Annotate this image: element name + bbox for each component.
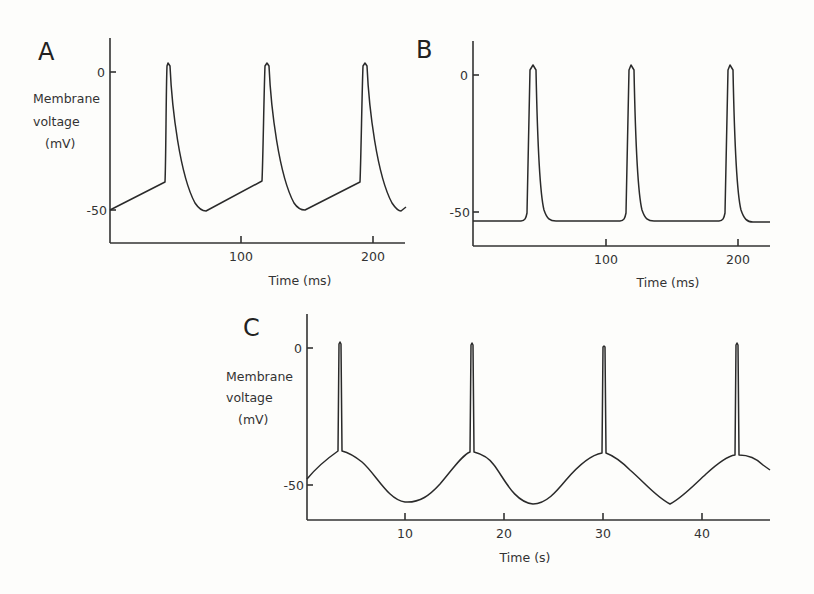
panel-b-yticklabel-0: 0 (460, 68, 468, 83)
panel-a-ylabel-line2: voltage (33, 114, 80, 129)
panel-a-xticklabel-200: 200 (361, 249, 385, 264)
panel-b: B 0 -50 100 200 Time (ms) (416, 36, 770, 290)
panel-b-yticklabel-minus50: -50 (450, 205, 470, 220)
panel-a-ylabel-line3: (mV) (45, 136, 75, 151)
panel-c-ylabel-line2: voltage (226, 390, 273, 405)
panel-a-xticklabel-100: 100 (229, 249, 253, 264)
panel-c-yticklabel-minus50: -50 (284, 478, 304, 493)
panel-c-xticklabel-20: 20 (496, 526, 512, 541)
panel-c: C 0 -50 10 20 30 40 Time (s) Membrane vo… (226, 314, 770, 565)
panel-b-xlabel: Time (ms) (635, 275, 699, 290)
panel-c-xticklabel-10: 10 (397, 526, 413, 541)
panel-c-trace (307, 342, 770, 504)
panel-b-xticklabel-200: 200 (726, 252, 750, 267)
panel-a-ylabel-line1: Membrane (33, 91, 100, 106)
panel-c-ylabel-line1: Membrane (226, 369, 293, 384)
panel-c-ylabel-line3: (mV) (238, 412, 268, 427)
panel-a-yticklabel-0: 0 (97, 65, 105, 80)
panel-a: A 0 -50 100 200 Time (ms) Membrane volta… (33, 38, 406, 288)
panel-b-letter: B (416, 36, 432, 64)
panel-c-letter: C (243, 314, 260, 342)
figure: A 0 -50 100 200 Time (ms) Membrane volta… (0, 0, 814, 594)
panel-a-trace (110, 63, 406, 211)
panel-c-xticklabel-40: 40 (694, 526, 710, 541)
panel-c-xticklabel-30: 30 (595, 526, 611, 541)
panel-c-xlabel: Time (s) (499, 550, 551, 565)
panel-b-trace (473, 65, 770, 222)
panel-a-letter: A (38, 38, 55, 66)
panel-c-yticklabel-0: 0 (294, 341, 302, 356)
panel-b-xticklabel-100: 100 (594, 252, 618, 267)
panel-a-xlabel: Time (ms) (267, 273, 331, 288)
panel-a-yticklabel-minus50: -50 (87, 203, 107, 218)
